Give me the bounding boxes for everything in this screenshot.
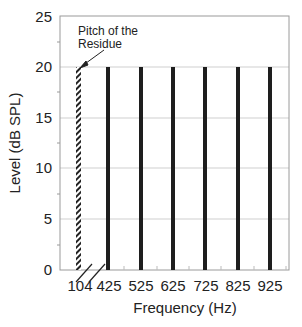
- x-tick: 925: [257, 277, 282, 294]
- bar-625: [171, 67, 175, 270]
- bar-525: [139, 67, 143, 270]
- y-tick-labels: 0 5 10 15 20 25: [35, 8, 52, 278]
- bar-725: [203, 67, 207, 270]
- x-tick: 625: [160, 277, 185, 294]
- x-tick: 104: [67, 277, 92, 294]
- x-axis-label: Frequency (Hz): [133, 299, 236, 316]
- y-tick: 10: [35, 159, 52, 176]
- bar-425: [106, 67, 110, 270]
- chart: Pitch of the Residue 0 5 10 15 20 25 104…: [0, 0, 302, 327]
- x-tick: 425: [96, 277, 121, 294]
- bar-925: [268, 67, 272, 270]
- x-tick: 725: [193, 277, 218, 294]
- y-tick: 20: [35, 58, 52, 75]
- x-tick: 525: [128, 277, 153, 294]
- annotation-arrow-icon: [80, 50, 104, 68]
- bar-825: [236, 67, 240, 270]
- y-tick: 5: [44, 210, 52, 227]
- y-tick: 0: [44, 261, 52, 278]
- annotation-line1: Pitch of the: [78, 24, 138, 38]
- annotation-line2: Residue: [78, 37, 122, 51]
- x-tick-labels: 104 425 525 625 725 825 925: [67, 277, 282, 294]
- bar-104-residue: [76, 67, 81, 270]
- y-tick: 25: [35, 8, 52, 25]
- y-axis-label: Level (dB SPL): [6, 93, 23, 194]
- y-tick: 15: [35, 109, 52, 126]
- x-tick: 825: [225, 277, 250, 294]
